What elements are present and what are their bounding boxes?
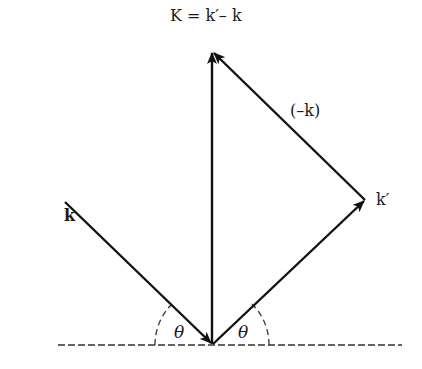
- angle-arc-right: [252, 304, 269, 345]
- scattered-k-prime-label: k′: [376, 190, 389, 209]
- incident-vector-k: [65, 202, 211, 343]
- negative-k-vector: [214, 53, 365, 200]
- incident-k-label: k: [64, 206, 75, 225]
- equation-label: K = k′– k: [170, 6, 242, 25]
- negative-k-label: (–k): [290, 101, 320, 120]
- scattering-vector-diagram: K = k′– k k k′ (–k) θ θ: [0, 0, 422, 369]
- diagram-canvas: [0, 0, 422, 369]
- theta-right-label: θ: [238, 322, 248, 342]
- scattered-vector-k-prime: [213, 201, 364, 344]
- theta-left-label: θ: [174, 322, 184, 342]
- angle-arc-left: [155, 304, 172, 345]
